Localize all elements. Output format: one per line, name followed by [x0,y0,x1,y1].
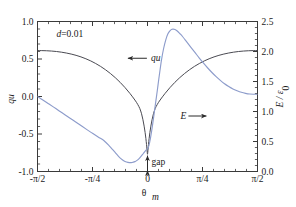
E-annotation-label: E [179,111,186,121]
gap-annotation-label: gap [152,157,166,167]
svg-text:E / ε: E / ε [275,90,285,108]
y-right-tick-label: 2.0 [262,47,274,57]
y-right-tick-label: 0.5 [262,137,274,147]
qu-annotation-label: qu [151,53,161,63]
x-tick-label: -π/4 [85,174,101,184]
y-left-tick-label: -1.0 [18,167,33,177]
y-right-tick-label: 1.5 [262,77,274,87]
y-axis-right-title: E / ε 0 [275,85,291,108]
y-left-tick-label: -0.5 [18,129,33,139]
figure-container: -π/2-π/40π/4π/21.00.50.0-0.5-1.02.52.01.… [0,0,296,207]
annotation-parameter: d=0.01 [56,29,83,39]
x-axis-title: θ m [142,188,159,202]
x-tick-label: π/4 [196,174,208,184]
y-right-tick-label: 2.5 [262,17,274,27]
svg-text:θ: θ [142,188,147,198]
svg-text:0: 0 [281,85,291,90]
y-axis-left-title: qu [6,94,16,104]
y-left-tick-label: 1.0 [22,17,34,27]
x-tick-label: 0 [145,174,150,184]
y-left-tick-label: 0.5 [22,54,34,64]
chart-svg: -π/2-π/40π/4π/21.00.50.0-0.5-1.02.52.01.… [0,0,296,207]
y-right-tick-label: 0.0 [262,167,274,177]
y-left-tick-label: 0.0 [22,92,34,102]
y-right-tick-label: 1.0 [262,107,274,117]
svg-text:m: m [152,192,159,202]
